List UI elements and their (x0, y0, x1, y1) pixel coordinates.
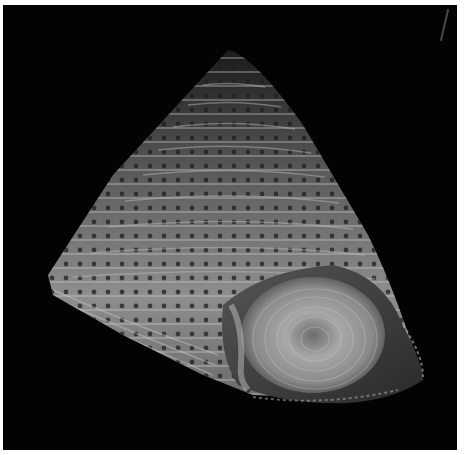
shell-photo (3, 5, 457, 450)
shell-aperture (222, 265, 423, 403)
stray-highlight (441, 10, 448, 40)
photo-frame (3, 5, 457, 450)
operculum (241, 277, 385, 393)
